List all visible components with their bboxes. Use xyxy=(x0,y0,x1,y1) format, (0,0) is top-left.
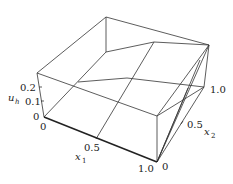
surface-plot: 0.2 0.1 0 u h 0 0.5 1.0 x 1 0 0.5 1.0 x … xyxy=(0,0,233,184)
x1-tick-label: 0 xyxy=(40,121,46,132)
z-axis-label-sub: h xyxy=(15,98,20,106)
z-axis-label: u xyxy=(8,92,14,103)
x2-axis-label: x xyxy=(204,126,210,137)
x1-tick-label: 0.5 xyxy=(84,142,100,153)
z-tick-label: 0 xyxy=(33,111,39,122)
surface-mesh xyxy=(44,42,209,162)
x2-tick-label: 1.0 xyxy=(210,84,226,95)
bounding-box xyxy=(37,17,209,162)
z-tick-label: 0.1 xyxy=(25,96,41,107)
x2-axis-label-sub: 2 xyxy=(211,132,215,140)
x2-tick-label: 0.5 xyxy=(187,119,203,130)
x2-tick-label: 0 xyxy=(162,161,168,172)
x1-axis-line xyxy=(44,117,157,162)
x1-axis-label-sub: 1 xyxy=(82,157,86,165)
x1-axis: 0 0.5 1.0 x 1 xyxy=(40,121,154,174)
z-tick-label: 0.2 xyxy=(20,82,36,93)
z-axis: 0.2 0.1 0 u h xyxy=(8,82,44,122)
x1-axis-label: x xyxy=(75,151,81,162)
x1-tick-label: 1.0 xyxy=(138,163,154,174)
